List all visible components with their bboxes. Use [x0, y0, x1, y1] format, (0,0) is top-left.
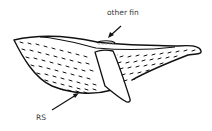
fin-diagram: other fin RS — [0, 0, 212, 131]
other-fin-arrow — [108, 26, 121, 38]
rs-label: RS — [36, 114, 46, 122]
rs-arrow — [52, 93, 79, 110]
fin-illustration — [0, 0, 212, 131]
middle-fin — [95, 50, 130, 102]
other-fin-label: other fin — [107, 9, 139, 17]
